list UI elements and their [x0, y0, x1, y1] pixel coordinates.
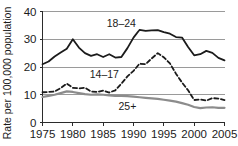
x-tick-label-2000: 2000 — [181, 128, 207, 140]
x-tick-label-1980: 1980 — [60, 128, 86, 140]
y-tick-label-20: 20 — [24, 61, 37, 73]
y-tick-label-0: 0 — [30, 117, 36, 129]
line-chart: 010203040 1975198019851990199520002005 1… — [0, 0, 238, 146]
series-line-0 — [43, 30, 225, 64]
series-label-1: 14–17 — [90, 68, 119, 80]
chart-container: 010203040 1975198019851990199520002005 1… — [0, 0, 238, 146]
y-axis-title-text: Rate per 100,000 population — [1, 7, 13, 140]
y-tick-label-10: 10 — [24, 89, 37, 101]
x-tick-label-1985: 1985 — [90, 128, 116, 140]
x-tick-label-1995: 1995 — [151, 128, 177, 140]
y-tick-label-40: 40 — [24, 6, 37, 18]
data-series — [43, 30, 225, 108]
x-tick-label-1975: 1975 — [30, 128, 56, 140]
x-tick-label-2005: 2005 — [212, 128, 238, 140]
y-axis-title: Rate per 100,000 population — [1, 7, 13, 140]
series-annotations: 18–2414–1725+ — [87, 17, 144, 113]
series-line-1 — [43, 53, 225, 100]
y-tick-labels: 010203040 — [24, 6, 37, 129]
y-tick-label-30: 30 — [24, 33, 37, 45]
x-tick-label-1990: 1990 — [121, 128, 147, 140]
series-label-0: 18–24 — [107, 17, 136, 29]
x-tick-labels: 1975198019851990199520002005 — [30, 128, 238, 140]
series-label-2: 25+ — [119, 100, 137, 112]
